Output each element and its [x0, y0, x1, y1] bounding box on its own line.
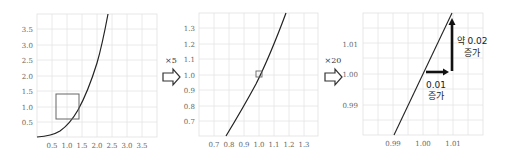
- svg-text:0.5: 0.5: [22, 119, 33, 127]
- svg-text:0.99: 0.99: [342, 102, 358, 110]
- svg-text:0.8: 0.8: [184, 103, 195, 111]
- svg-text:1.3: 1.3: [298, 141, 309, 149]
- svg-text:1.1: 1.1: [268, 141, 279, 149]
- svg-text:1.0: 1.0: [184, 72, 195, 80]
- zoom-figure: 3.5 3.0 2.5 2.0 1.5 1.0 0.5 0.5 1.0 1.5 …: [0, 0, 505, 160]
- chart-2-y-ticks: 1.3 1.2 1.1 1.0 0.9 0.8 0.7: [184, 25, 195, 126]
- svg-text:1.5: 1.5: [22, 88, 33, 96]
- svg-text:0.7: 0.7: [208, 141, 219, 149]
- svg-text:0.99: 0.99: [385, 140, 401, 148]
- svg-text:1.01: 1.01: [445, 140, 461, 148]
- chart-2-grid: [199, 13, 318, 136]
- svg-text:1.2: 1.2: [283, 141, 294, 149]
- svg-text:1.01: 1.01: [342, 41, 358, 49]
- chart-1-zoom-box: [56, 94, 79, 119]
- svg-text:0.9: 0.9: [184, 87, 195, 95]
- svg-text:증가: 증가: [464, 48, 480, 58]
- zoom-arrow-2: ×20: [325, 56, 342, 85]
- svg-text:2.0: 2.0: [91, 142, 102, 150]
- zoom-arrow-1: ×5: [163, 56, 180, 85]
- svg-text:3.5: 3.5: [22, 26, 33, 34]
- chart-3: 0.01 증가 약 0.02 증가 1.01 1.00 0.99 0.99 1.…: [342, 13, 487, 148]
- chart-1-x-ticks: 0.5 1.0 1.5 2.0 2.5 3.0 3.5: [46, 142, 147, 150]
- svg-text:×5: ×5: [165, 56, 177, 65]
- dx-label: 0.01 증가: [426, 80, 446, 101]
- svg-text:×20: ×20: [325, 56, 342, 65]
- dy-arrow: [449, 18, 456, 71]
- svg-text:0.5: 0.5: [46, 142, 57, 150]
- svg-text:2.5: 2.5: [22, 57, 33, 65]
- svg-text:1.0: 1.0: [61, 142, 72, 150]
- svg-text:2.5: 2.5: [106, 142, 117, 150]
- svg-text:1.00: 1.00: [342, 71, 358, 79]
- chart-2: 1.3 1.2 1.1 1.0 0.9 0.8 0.7 0.7 0.8 0.9 …: [184, 13, 318, 149]
- chart-3-x-ticks: 0.99 1.00 1.01: [385, 140, 461, 148]
- svg-text:1.1: 1.1: [184, 56, 195, 64]
- svg-text:3.0: 3.0: [22, 42, 33, 50]
- svg-text:1.0: 1.0: [22, 104, 33, 112]
- svg-text:3.0: 3.0: [121, 142, 132, 150]
- chart-1: 3.5 3.0 2.5 2.0 1.5 1.0 0.5 0.5 1.0 1.5 …: [22, 14, 157, 150]
- svg-text:1.2: 1.2: [184, 41, 195, 49]
- svg-text:0.8: 0.8: [223, 141, 234, 149]
- chart-2-x-ticks: 0.7 0.8 0.9 1.0 1.1 1.2 1.3: [208, 141, 309, 149]
- right-arrow-icon: [163, 69, 180, 85]
- svg-text:0.7: 0.7: [184, 118, 195, 126]
- dx-arrow: [426, 69, 449, 76]
- svg-text:1.5: 1.5: [76, 142, 87, 150]
- svg-text:1.3: 1.3: [184, 25, 195, 33]
- chart-1-grid: [37, 14, 157, 137]
- svg-text:0.9: 0.9: [238, 141, 249, 149]
- chart-3-y-ticks: 1.01 1.00 0.99: [342, 41, 358, 110]
- svg-text:1.0: 1.0: [253, 141, 264, 149]
- right-arrow-icon: [325, 69, 342, 85]
- svg-text:2.0: 2.0: [22, 73, 33, 81]
- svg-text:약 0.02: 약 0.02: [457, 35, 488, 46]
- chart-1-y-ticks: 3.5 3.0 2.5 2.0 1.5 1.0 0.5: [22, 26, 33, 127]
- svg-text:3.5: 3.5: [136, 142, 147, 150]
- svg-text:0.01: 0.01: [426, 80, 446, 90]
- svg-text:증가: 증가: [428, 91, 444, 101]
- svg-text:1.00: 1.00: [415, 140, 431, 148]
